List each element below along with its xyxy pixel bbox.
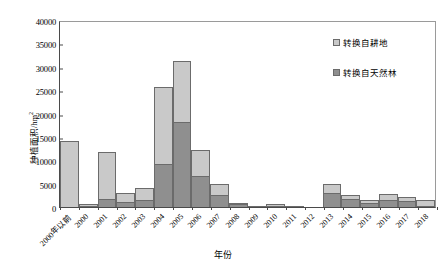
y-axis-tick-label: 5000	[40, 181, 56, 191]
x-axis-tick-label: 2001	[92, 212, 110, 230]
bar-stack[interactable]	[229, 22, 248, 207]
y-axis-tick-label: 10000	[36, 157, 56, 167]
y-axis-tick-label: 15000	[36, 134, 56, 144]
bar-segment-natural-forest[interactable]	[229, 204, 248, 207]
x-axis-tick-label: 2005	[167, 212, 185, 230]
chart-figure: 种植面积/hm2 0500010000150002000025000300003…	[0, 0, 445, 276]
bar-segment-natural-forest[interactable]	[154, 164, 173, 207]
x-axis-tick-label: 2008	[224, 212, 242, 230]
bar-stack[interactable]	[304, 22, 323, 207]
bar-stack[interactable]	[248, 22, 267, 207]
x-axis-tick-label: 2016	[375, 212, 393, 230]
bar-segment-natural-forest[interactable]	[135, 200, 154, 207]
legend-swatch-icon	[333, 69, 340, 76]
bar-stack[interactable]	[266, 22, 285, 207]
bar-segment-cropland[interactable]	[191, 150, 210, 176]
bar-segment-cropland[interactable]	[98, 152, 117, 198]
bar-segment-natural-forest[interactable]	[323, 193, 342, 207]
bar-segment-natural-forest[interactable]	[416, 206, 435, 207]
bar-segment-natural-forest[interactable]	[266, 206, 285, 207]
bar-segment-cropland[interactable]	[60, 141, 79, 207]
y-axis-tick-label: 40000	[36, 17, 56, 27]
bar-segment-natural-forest[interactable]	[285, 206, 304, 207]
bar-stack[interactable]	[285, 22, 304, 207]
bar-stack[interactable]	[154, 22, 173, 207]
x-axis-tick-label: 2018	[412, 212, 430, 230]
legend-swatch-icon	[333, 39, 340, 46]
y-axis-tick-label: 30000	[36, 64, 56, 74]
bar-stack[interactable]	[98, 22, 117, 207]
x-axis-tick-label: 2003	[129, 212, 147, 230]
bar-stack[interactable]	[173, 22, 192, 207]
y-axis-tick-label: 20000	[36, 111, 56, 121]
x-axis-tick-label: 2013	[318, 212, 336, 230]
bar-segment-natural-forest[interactable]	[173, 122, 192, 207]
bar-segment-natural-forest[interactable]	[398, 201, 417, 207]
y-axis-tick-label: 0	[52, 204, 56, 214]
legend-item-natural-forest: 转换自天然林	[333, 66, 433, 78]
bar-stack[interactable]	[210, 22, 229, 207]
legend-item-cropland: 转换自耕地	[333, 36, 433, 48]
x-axis-tick-label: 2000年以前	[37, 212, 73, 248]
bar-segment-cropland[interactable]	[154, 87, 173, 164]
x-axis-tick-label: 2011	[281, 212, 298, 229]
y-axis-tick-label: 35000	[36, 40, 56, 50]
bar-stack[interactable]	[135, 22, 154, 207]
bar-segment-natural-forest[interactable]	[191, 176, 210, 207]
x-axis-tick-label: 2006	[186, 212, 204, 230]
bar-segment-natural-forest[interactable]	[210, 195, 229, 207]
x-axis-tick-label: 2004	[148, 212, 166, 230]
x-axis-tick-label: 2015	[356, 212, 374, 230]
x-axis-title-text: 年份	[214, 250, 232, 260]
x-axis-title: 年份	[0, 248, 445, 261]
bar-segment-cropland[interactable]	[210, 184, 229, 195]
legend-label: 转换自天然林	[343, 66, 397, 78]
bar-segment-natural-forest[interactable]	[98, 199, 117, 207]
bar-stack[interactable]	[191, 22, 210, 207]
x-axis-tick-mark	[437, 207, 438, 210]
x-axis-tick-label: 2007	[205, 212, 223, 230]
x-axis-tick-label: 2002	[111, 212, 129, 230]
x-axis-tick-label: 2009	[243, 212, 261, 230]
bar-segment-natural-forest[interactable]	[379, 200, 398, 207]
x-axis-tick-label: 2010	[261, 212, 279, 230]
bar-stack[interactable]	[60, 22, 79, 207]
x-axis-tick-label: 2000	[73, 212, 91, 230]
x-axis-tick-label: 2014	[337, 212, 355, 230]
bar-segment-natural-forest[interactable]	[341, 199, 360, 207]
bar-stack[interactable]	[79, 22, 98, 207]
bar-segment-natural-forest[interactable]	[248, 206, 267, 207]
x-axis-tick-label: 2017	[393, 212, 411, 230]
x-axis-tick-label: 2012	[299, 212, 317, 230]
bar-segment-natural-forest[interactable]	[79, 206, 98, 207]
bar-segment-cropland[interactable]	[135, 188, 154, 201]
legend-label: 转换自耕地	[343, 36, 388, 48]
y-axis-tick-label: 25000	[36, 87, 56, 97]
bar-segment-cropland[interactable]	[173, 61, 192, 122]
bar-segment-natural-forest[interactable]	[116, 202, 135, 207]
bar-segment-cropland[interactable]	[116, 193, 135, 202]
chart-legend: 转换自耕地 转换自天然林	[333, 36, 433, 96]
bar-stack[interactable]	[116, 22, 135, 207]
bar-segment-natural-forest[interactable]	[360, 203, 379, 207]
bar-segment-cropland[interactable]	[323, 184, 342, 194]
